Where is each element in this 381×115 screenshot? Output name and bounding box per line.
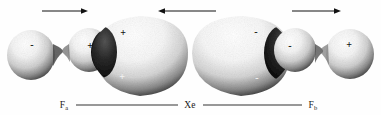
atom-label-fluorine-b: Fb (309, 100, 318, 110)
atom-label-fluorine-b-subscript: b (314, 104, 317, 111)
atom-label-fluorine-a: Fa (60, 100, 69, 110)
bond-rule-left (76, 105, 178, 106)
atom-label-xenon-element: Xe (184, 100, 195, 110)
atom-label-fluorine-a-subscript: a (65, 104, 68, 111)
atom-label-xenon: Xe (184, 100, 195, 110)
molecular-axis: Fa Xe Fb (0, 0, 381, 115)
bond-rule-right (203, 105, 302, 106)
orbital-diagram-figure: - + + + - - - + Fa Xe Fb (0, 0, 381, 115)
